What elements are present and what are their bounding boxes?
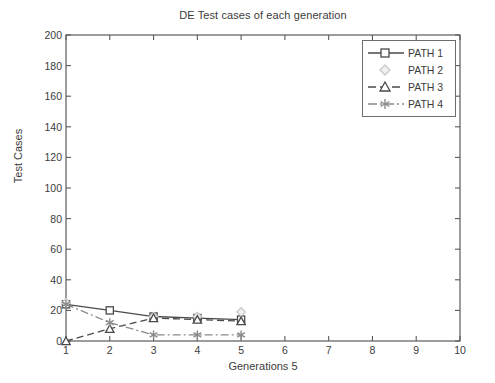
x-tick: 1 <box>51 345 81 359</box>
x-tick: 10 <box>445 345 475 359</box>
x-tick-label: 9 <box>401 345 431 356</box>
legend-label-path-2: PATH 2 <box>405 64 443 76</box>
legend-sample-path-2 <box>367 62 405 78</box>
y-tick: 80 <box>30 214 62 215</box>
y-tick-label: 80 <box>34 214 62 225</box>
x-tick: 3 <box>139 345 169 359</box>
x-tick-label: 1 <box>51 345 81 356</box>
y-tick-label: 200 <box>34 30 62 41</box>
legend-label-path-3: PATH 3 <box>405 81 443 93</box>
data-series-layer <box>62 299 246 345</box>
data-point-marker <box>150 330 158 339</box>
legend-item-path-1[interactable]: PATH 1 <box>363 44 455 61</box>
y-tick: 100 <box>30 183 62 184</box>
y-tick: 0 <box>30 336 62 337</box>
x-tick: 8 <box>357 345 387 359</box>
y-tick: 120 <box>30 152 62 153</box>
y-tick: 60 <box>30 244 62 245</box>
x-tick: 7 <box>314 345 344 359</box>
y-axis-label: Test Cases <box>12 116 24 196</box>
y-tick: 40 <box>30 275 62 276</box>
legend-item-path-3[interactable]: PATH 3 <box>363 78 455 95</box>
x-axis-label: Generations 5 <box>66 360 460 372</box>
data-point-marker <box>237 308 245 316</box>
legend-label-path-4: PATH 4 <box>405 98 443 110</box>
legend-sample-path-4 <box>367 96 405 112</box>
legend-label-path-1: PATH 1 <box>405 47 443 59</box>
data-point-marker <box>106 318 114 327</box>
y-tick-label: 100 <box>34 183 62 194</box>
legend-sample-path-1 <box>367 45 405 61</box>
x-tick-label: 8 <box>357 345 387 356</box>
x-tick: 4 <box>182 345 212 359</box>
y-tick: 180 <box>30 61 62 62</box>
chart-title: DE Test cases of each generation <box>66 9 460 21</box>
y-tick-label: 140 <box>34 122 62 133</box>
x-tick-label: 3 <box>139 345 169 356</box>
x-tick: 6 <box>270 345 300 359</box>
legend-item-path-2[interactable]: PATH 2 <box>363 61 455 78</box>
x-tick: 9 <box>401 345 431 359</box>
y-tick-label: 20 <box>34 305 62 316</box>
x-tick-label: 10 <box>445 345 475 356</box>
y-tick: 140 <box>30 122 62 123</box>
y-tick: 20 <box>30 305 62 306</box>
y-tick: 200 <box>30 30 62 31</box>
x-tick-label: 2 <box>95 345 125 356</box>
x-tick-label: 5 <box>226 345 256 356</box>
y-tick-label: 160 <box>34 91 62 102</box>
legend-item-path-4[interactable]: PATH 4 <box>363 95 455 112</box>
x-tick-label: 4 <box>182 345 212 356</box>
x-tick: 5 <box>226 345 256 359</box>
chart-legend: PATH 1 PATH 2 PATH 3 PA <box>362 40 456 117</box>
legend-sample-path-3 <box>367 79 405 95</box>
y-tick-label: 40 <box>34 275 62 286</box>
y-tick: 160 <box>30 91 62 92</box>
chart-figure: DE Test cases of each generation Test Ca… <box>0 0 495 383</box>
data-point-marker <box>106 307 113 314</box>
x-tick: 2 <box>95 345 125 359</box>
y-tick-label: 120 <box>34 152 62 163</box>
y-tick-label: 180 <box>34 61 62 72</box>
y-tick-label: 60 <box>34 244 62 255</box>
x-tick-label: 7 <box>314 345 344 356</box>
x-tick-label: 6 <box>270 345 300 356</box>
